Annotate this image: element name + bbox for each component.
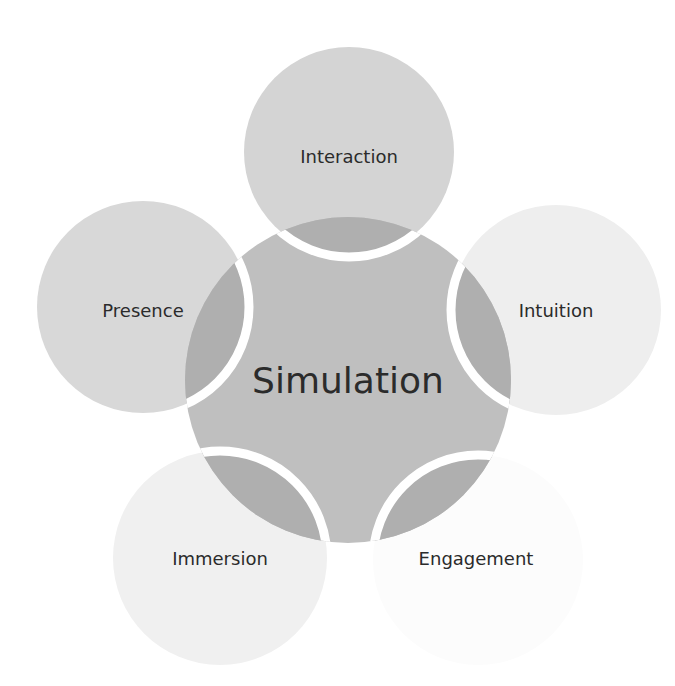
- satellite-label-immersion: Immersion: [172, 548, 268, 569]
- simulation-cycle-diagram: InteractionIntuitionEngagementImmersionP…: [0, 0, 675, 686]
- satellite-label-engagement: Engagement: [419, 548, 534, 569]
- satellite-label-interaction: Interaction: [300, 146, 398, 167]
- satellite-label-intuition: Intuition: [519, 300, 594, 321]
- center-label: Simulation: [252, 360, 444, 401]
- satellite-label-presence: Presence: [102, 300, 183, 321]
